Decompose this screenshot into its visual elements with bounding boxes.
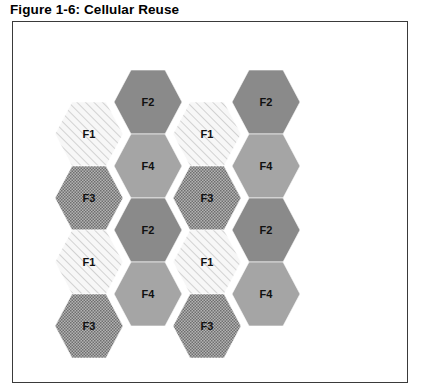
hex-frequency-label: F1 <box>201 256 214 268</box>
hex-frequency-label: F1 <box>83 128 96 140</box>
hex-cell-f2: F2 <box>232 198 300 262</box>
hex-cell-f4: F4 <box>114 262 182 326</box>
hex-frequency-label: F2 <box>260 96 273 108</box>
hex-cell-f3: F3 <box>55 166 123 230</box>
hex-cell-f4: F4 <box>232 134 300 198</box>
hexagon-grid: F1F3F1F3F2F4F2F4F1F3F1F3F2F4F2F4 <box>13 22 409 384</box>
hex-cell-f2: F2 <box>114 198 182 262</box>
hex-cell-f2: F2 <box>232 70 300 134</box>
hex-frequency-label: F1 <box>83 256 96 268</box>
hex-frequency-label: F3 <box>201 320 214 332</box>
hex-frequency-label: F4 <box>260 288 274 300</box>
hex-cell-f1: F1 <box>173 230 241 294</box>
hex-cell-f4: F4 <box>114 134 182 198</box>
hex-frequency-label: F2 <box>142 224 155 236</box>
hex-frequency-label: F4 <box>260 160 274 172</box>
hex-cell-f2: F2 <box>114 70 182 134</box>
hex-cell-f1: F1 <box>173 102 241 166</box>
figure-title: Figure 1-6: Cellular Reuse <box>10 2 179 17</box>
hex-frequency-label: F3 <box>83 320 96 332</box>
hex-frequency-label: F3 <box>83 192 96 204</box>
hex-cell-f1: F1 <box>55 102 123 166</box>
hex-frequency-label: F4 <box>142 288 156 300</box>
hex-frequency-label: F3 <box>201 192 214 204</box>
hex-frequency-label: F2 <box>260 224 273 236</box>
hex-frequency-label: F1 <box>201 128 214 140</box>
hex-cell-f1: F1 <box>55 230 123 294</box>
hex-frequency-label: F2 <box>142 96 155 108</box>
hex-cell-f4: F4 <box>232 262 300 326</box>
hex-cell-f3: F3 <box>173 166 241 230</box>
figure-frame: F1F3F1F3F2F4F2F4F1F3F1F3F2F4F2F4 <box>12 21 408 383</box>
hex-cell-f3: F3 <box>173 294 241 358</box>
hex-cell-f3: F3 <box>55 294 123 358</box>
hex-frequency-label: F4 <box>142 160 156 172</box>
